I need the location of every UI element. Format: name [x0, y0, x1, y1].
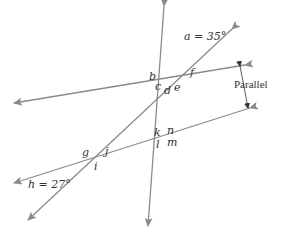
- angle-label-j: j: [102, 145, 109, 158]
- parallel-label: Parallel: [234, 78, 268, 90]
- angle-label-i: i: [94, 160, 98, 173]
- angle-diagram: a = 35° b c d e f g h = 27° i j k l m n …: [0, 0, 297, 232]
- angle-label-n: n: [167, 124, 174, 137]
- transversal-diagonal: [28, 29, 232, 220]
- angle-label-l: l: [156, 138, 160, 151]
- angle-label-g: g: [82, 146, 89, 159]
- angle-label-d: d: [164, 84, 171, 97]
- angle-label-m: m: [167, 136, 177, 149]
- angle-label-a: a = 35°: [184, 30, 226, 43]
- parallel-line-lower: [14, 108, 250, 183]
- angle-label-h: h = 27°: [28, 178, 71, 191]
- angle-label-e: e: [174, 81, 181, 94]
- angle-label-c: c: [155, 80, 161, 93]
- transversal-steep: [148, 6, 164, 226]
- parallel-line-upper: [14, 65, 245, 103]
- angle-label-f: f: [189, 66, 196, 79]
